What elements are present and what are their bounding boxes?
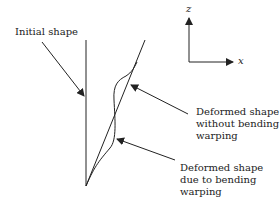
diagram: Initial shape z x Deformed shape without… (0, 0, 280, 212)
deformed-no-warp-line (86, 40, 145, 186)
x-axis-label: x (238, 55, 244, 66)
deformed-warp-label-2: due to bending (180, 174, 256, 186)
deformed-no-warp-label-1: Deformed shape (196, 106, 279, 118)
initial-shape-arrow (42, 42, 84, 96)
deformed-no-warp-label-3: warping (196, 130, 238, 142)
initial-shape-label: Initial shape (15, 26, 78, 38)
deformed-no-warp-arrow (131, 85, 188, 114)
deformed-warp-label-3: warping (180, 186, 222, 198)
z-axis-label: z (186, 3, 191, 14)
deformed-no-warp-label-2: without bending (196, 118, 279, 130)
deformed-warp-arrow (117, 139, 175, 160)
deformed-warp-label-1: Deformed shape (180, 162, 263, 174)
